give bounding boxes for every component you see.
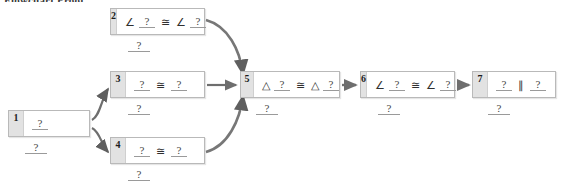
statement-blank-1a[interactable]: ? [32,118,48,130]
proof-node-3: 3 ? ≅ ? [110,71,205,98]
statement-blank-6b[interactable]: ? [440,79,456,91]
congruent-icon: ≅ [159,16,172,28]
statement-box-6[interactable]: 6 ∠ ? ≅ ∠ ? [360,71,455,98]
edge-1-to-3 [92,89,108,120]
congruent-icon: ≅ [154,145,167,157]
statement-blank-2a[interactable]: ? [139,16,155,28]
reason-blank-6[interactable]: ? [378,103,400,115]
statement-blank-7a[interactable]: ? [496,79,512,91]
reason-blank-3[interactable]: ? [128,103,150,115]
statement-blank-4a[interactable]: ? [134,145,150,157]
step-number-1: 1 [9,111,24,136]
reason-blank-2[interactable]: ? [128,40,150,52]
reason-1: ? [25,142,47,154]
reason-2: ? [128,40,150,52]
statement-text-2: ∠ ? ≅ ∠ ? [117,16,206,28]
statement-text-7: ? ∥ ? [488,79,555,91]
statement-blank-2b[interactable]: ? [190,16,206,28]
triangle-icon: △ [311,79,319,91]
statement-blank-7b[interactable]: ? [530,79,546,91]
step-number-7: 7 [473,72,488,97]
statement-box-3[interactable]: 3 ? ≅ ? [110,71,205,98]
flowchart-proof-canvas: Flowchart Proof 1 ? [0,0,564,187]
angle-icon: ∠ [375,79,385,91]
statement-text-1: ? [24,118,89,130]
angle-icon: ∠ [426,79,436,91]
statement-blank-3a[interactable]: ? [134,79,150,91]
congruent-icon: ≅ [294,79,307,91]
statement-box-5[interactable]: 5 △ ? ≅ △ ? [240,71,340,98]
proof-node-1: 1 ? [8,110,90,137]
congruent-icon: ≅ [154,79,167,91]
statement-box-4[interactable]: 4 ? ≅ ? [110,137,205,164]
reason-blank-5[interactable]: ? [256,103,278,115]
reason-7: ? [488,103,510,115]
statement-box-2[interactable]: 2 ∠ ? ≅ ∠ ? [110,8,205,35]
proof-node-7: 7 ? ∥ ? [472,71,556,98]
statement-text-6: ∠ ? ≅ ∠ ? [367,79,456,91]
triangle-icon: △ [262,79,270,91]
reason-blank-4[interactable]: ? [128,169,150,181]
reason-5: ? [256,103,278,115]
reason-4: ? [128,169,150,181]
reason-blank-7[interactable]: ? [488,103,510,115]
edge-2-to-5 [206,20,243,74]
statement-blank-5b[interactable]: ? [323,79,339,91]
statement-text-5: △ ? ≅ △ ? [254,79,339,91]
angle-icon: ∠ [176,16,186,28]
statement-blank-5a[interactable]: ? [274,79,290,91]
statement-blank-3b[interactable]: ? [171,79,187,91]
reason-3: ? [128,103,150,115]
parallel-icon: ∥ [516,79,526,91]
proof-node-6: 6 ∠ ? ≅ ∠ ? [360,71,455,98]
angle-icon: ∠ [125,16,135,28]
statement-text-3: ? ≅ ? [126,79,204,91]
statement-text-4: ? ≅ ? [126,145,204,157]
step-number-5: 5 [241,72,254,97]
edge-1-to-4 [92,128,108,152]
page-title: Flowchart Proof [4,0,84,2]
step-number-4: 4 [111,138,126,163]
statement-box-7[interactable]: 7 ? ∥ ? [472,71,556,98]
proof-node-4: 4 ? ≅ ? [110,137,205,164]
statement-box-1[interactable]: 1 ? [8,110,90,137]
statement-blank-4b[interactable]: ? [171,145,187,157]
edge-4-to-5 [206,96,243,152]
reason-blank-1[interactable]: ? [25,142,47,154]
statement-blank-6a[interactable]: ? [389,79,405,91]
proof-node-2: 2 ∠ ? ≅ ∠ ? [110,8,205,35]
proof-node-5: 5 △ ? ≅ △ ? [240,71,340,98]
congruent-icon: ≅ [409,79,422,91]
step-number-3: 3 [111,72,126,97]
reason-6: ? [378,103,400,115]
